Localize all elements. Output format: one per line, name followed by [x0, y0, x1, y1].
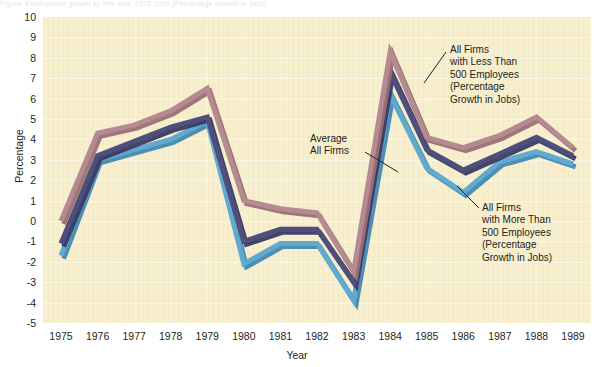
- x-tick-label: 1979: [187, 330, 227, 342]
- x-tick-label: 1987: [480, 330, 520, 342]
- y-tick-label: 0: [8, 216, 36, 226]
- y-tick-label: -5: [8, 318, 36, 328]
- y-tick-label: -2: [8, 257, 36, 267]
- y-tick-label: 1: [8, 196, 36, 206]
- y-tick-label: 8: [8, 53, 36, 63]
- annotation-large-firms: All Firms with More Than 500 Employees (…: [482, 202, 552, 264]
- figure-caption: Figure: Employment growth by firm size, …: [0, 0, 594, 9]
- y-tick-label: 4: [8, 134, 36, 144]
- x-tick-label: 1975: [41, 330, 81, 342]
- chart-root: Figure: Employment growth by firm size, …: [0, 0, 594, 367]
- x-tick-label: 1981: [260, 330, 300, 342]
- y-tick-label: -1: [8, 236, 36, 246]
- x-tick-label: 1986: [443, 330, 483, 342]
- x-tick-label: 1983: [334, 330, 374, 342]
- x-tick-label: 1984: [370, 330, 410, 342]
- y-tick-label: 6: [8, 94, 36, 104]
- x-tick-label: 1980: [224, 330, 264, 342]
- y-tick-label: 2: [8, 175, 36, 185]
- x-tick-label: 1989: [553, 330, 593, 342]
- y-tick-label: 7: [8, 73, 36, 83]
- x-tick-label: 1982: [297, 330, 337, 342]
- x-axis-title: Year: [0, 349, 594, 361]
- y-tick-label: 5: [8, 114, 36, 124]
- annotation-average-firms: Average All Firms: [310, 133, 349, 158]
- x-tick-label: 1977: [114, 330, 154, 342]
- x-tick-label: 1985: [407, 330, 447, 342]
- y-tick-label: -4: [8, 298, 36, 308]
- y-tick-label: 3: [8, 155, 36, 165]
- y-tick-label: 10: [8, 12, 36, 22]
- y-tick-label: 9: [8, 32, 36, 42]
- x-tick-label: 1976: [78, 330, 118, 342]
- y-tick-label: -3: [8, 277, 36, 287]
- x-tick-label: 1988: [516, 330, 556, 342]
- x-tick-label: 1978: [151, 330, 191, 342]
- annotation-small-firms: All Firms with Less Than 500 Employees (…: [450, 44, 520, 106]
